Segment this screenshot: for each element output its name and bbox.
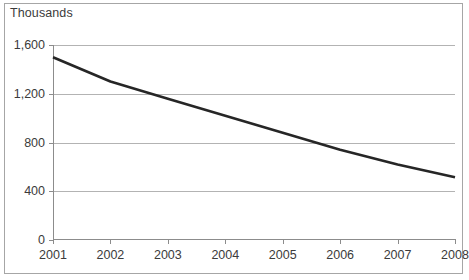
y-axis-tick-label: 1,200 xyxy=(14,87,45,101)
x-axis-tick-mark xyxy=(455,239,456,244)
x-axis-tick-label: 2003 xyxy=(154,248,182,262)
y-axis-tick-labels: 04008001,2001,600 xyxy=(0,45,45,240)
x-axis-tick-label: 2001 xyxy=(39,248,67,262)
series-line xyxy=(53,57,455,177)
line-chart-figure: Thousands 04008001,2001,600 200120022003… xyxy=(0,0,469,280)
x-axis-tick-label: 2006 xyxy=(326,248,354,262)
x-axis-tick-labels: 20012002200320042005200620072008 xyxy=(53,248,455,268)
y-axis-tick-label: 0 xyxy=(38,233,45,247)
x-axis-tick-label: 2007 xyxy=(384,248,412,262)
plot-area xyxy=(53,45,455,240)
y-axis-tick-label: 400 xyxy=(24,184,45,198)
x-axis-tick-label: 2004 xyxy=(211,248,239,262)
chart-axis-unit-label: Thousands xyxy=(10,6,73,20)
y-axis-tick-label: 800 xyxy=(24,136,45,150)
y-axis-tick-label: 1,600 xyxy=(14,38,45,52)
x-axis-tick-label: 2005 xyxy=(269,248,297,262)
x-axis-tick-label: 2008 xyxy=(441,248,469,262)
data-series-svg xyxy=(53,45,455,240)
x-axis-tick-label: 2002 xyxy=(97,248,125,262)
